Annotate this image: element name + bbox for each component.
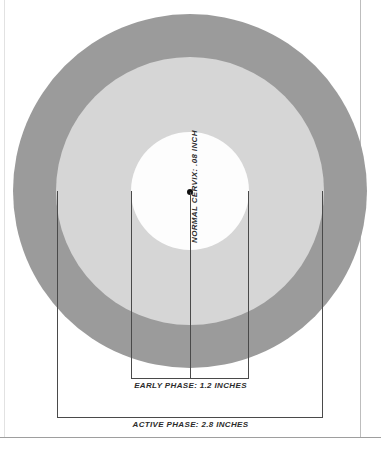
early-phase-dimension-line xyxy=(131,378,249,379)
frame-left-rule xyxy=(4,0,5,437)
normal-cervix-label: NORMAL CERVIX: .08 INCH xyxy=(190,130,199,245)
early-phase-leader-right xyxy=(248,191,249,378)
active-phase-dimension-line xyxy=(57,417,323,418)
dilation-diagram: NORMAL CERVIX: .08 INCH EARLY PHASE: 1.2… xyxy=(0,0,381,449)
frame-bottom-rule xyxy=(0,437,381,438)
active-phase-label: ACTIVE PHASE: 2.8 INCHES xyxy=(0,420,381,429)
early-phase-leader-left xyxy=(131,191,132,378)
early-phase-label: EARLY PHASE: 1.2 INCHES xyxy=(0,381,381,390)
